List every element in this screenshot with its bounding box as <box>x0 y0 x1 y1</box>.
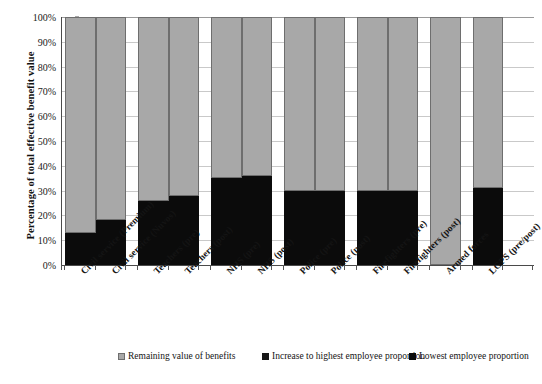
y-tick-label: 40% <box>38 160 56 171</box>
square-swatch-gray <box>118 353 125 360</box>
square-swatch-black <box>409 353 416 360</box>
bar-firefighters-pre <box>357 17 388 265</box>
bar-segment-remaining-value-of-benefits <box>315 17 346 191</box>
bar-police-pre <box>284 17 315 265</box>
bar-segment-remaining-value-of-benefits <box>357 17 388 191</box>
y-tick-label: 70% <box>38 86 56 97</box>
y-tick-label: 50% <box>38 136 56 147</box>
bar-segment-remaining-value-of-benefits <box>388 17 419 191</box>
y-tick-label: 60% <box>38 111 56 122</box>
y-axis-tick-labels: 0%10%20%30%40%50%60%70%80%90%100% <box>18 17 56 265</box>
bar-segment-lowest-employee-proportion <box>211 178 242 265</box>
legend-item: Lowest employee proportion <box>409 352 529 362</box>
chart-legend: Remaining value of benefitsIncrease to h… <box>0 352 540 370</box>
bar-segment-remaining-value-of-benefits <box>473 17 504 188</box>
bar-segment-lowest-employee-proportion <box>473 188 504 265</box>
legend-item: Remaining value of benefits <box>118 352 235 362</box>
y-tick-label: 100% <box>33 12 56 23</box>
bar-segment-remaining-value-of-benefits <box>242 17 273 176</box>
legend-item: Increase to highest employee proportion <box>262 352 425 362</box>
legend-label: Lowest employee proportion <box>419 352 529 362</box>
y-tick-label: 10% <box>38 235 56 246</box>
bar-civil-service-premium <box>65 17 96 265</box>
bar-segment-lowest-employee-proportion <box>284 191 315 265</box>
legend-label: Remaining value of benefits <box>128 352 235 362</box>
bar-segment-remaining-value-of-benefits <box>65 17 96 233</box>
bar-segment-remaining-value-of-benefits <box>211 17 242 178</box>
y-tick-label: 20% <box>38 210 56 221</box>
x-axis-tick-labels: Civil service (Premium)Civil service (Nu… <box>0 268 540 338</box>
legend-label: Increase to highest employee proportion <box>272 352 425 362</box>
y-tick-label: 90% <box>38 36 56 47</box>
bar-segment-remaining-value-of-benefits <box>138 17 169 201</box>
bar-police-post <box>315 17 346 265</box>
bar-segment-remaining-value-of-benefits <box>284 17 315 191</box>
bar-nhs-post <box>242 17 273 265</box>
square-swatch-black <box>262 353 269 360</box>
bar-lgps-pre-post <box>473 17 504 265</box>
y-tick-label: 30% <box>38 185 56 196</box>
y-tick-label: 80% <box>38 61 56 72</box>
bar-segment-remaining-value-of-benefits <box>96 17 127 220</box>
bar-segment-remaining-value-of-benefits <box>169 17 200 196</box>
bar-segment-lowest-employee-proportion <box>357 191 388 265</box>
